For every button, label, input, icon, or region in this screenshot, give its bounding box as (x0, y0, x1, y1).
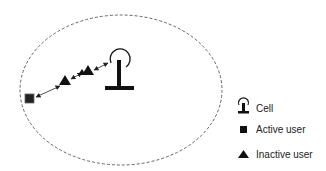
inactive-user-triangle-icon (59, 75, 71, 85)
legend-label-active-user: Active user (256, 124, 305, 136)
legend-antenna-icon (238, 98, 249, 114)
diagram-canvas (0, 0, 326, 171)
legend-label-cell: Cell (256, 103, 273, 115)
legend-triangle-icon (238, 150, 249, 158)
legend-square-icon (240, 126, 247, 133)
cell-relay-diagram: Cell Active user Inactive user (0, 0, 326, 171)
link-user-relay1 (36, 86, 60, 97)
legend-label-inactive-user: Inactive user (256, 149, 313, 161)
cell-antenna-icon (105, 49, 134, 90)
inactive-user-triangle-icon (78, 65, 94, 75)
active-user-square-icon (25, 94, 34, 103)
link-relay2-cell (94, 63, 108, 70)
